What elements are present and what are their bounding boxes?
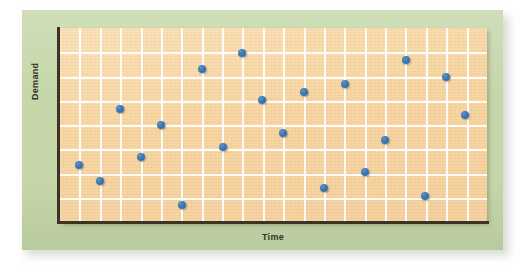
y-axis-label: Demand — [30, 63, 40, 100]
grid-line-horizontal — [59, 101, 487, 103]
x-axis-label: Time — [59, 232, 487, 242]
grid-line-horizontal — [59, 174, 487, 176]
data-point — [421, 192, 429, 200]
grid-line-horizontal — [59, 77, 487, 79]
data-point — [341, 80, 349, 88]
data-point — [75, 161, 83, 169]
data-point — [320, 184, 328, 192]
plot-area — [59, 28, 487, 222]
data-point — [279, 129, 287, 137]
y-axis-spine — [57, 27, 60, 224]
data-point — [442, 73, 450, 81]
data-point — [402, 56, 410, 64]
data-point — [300, 88, 308, 96]
data-point — [219, 143, 227, 151]
data-point — [178, 201, 186, 209]
data-point — [96, 177, 104, 185]
data-point — [198, 65, 206, 73]
data-point — [116, 105, 124, 113]
data-point — [461, 111, 469, 119]
data-point — [361, 168, 369, 176]
scatter-plot-figure: Demand Time — [0, 0, 529, 270]
data-point — [157, 121, 165, 129]
grid-line-horizontal — [59, 125, 487, 127]
x-axis-spine — [57, 221, 489, 224]
grid-line-horizontal — [59, 149, 487, 151]
data-point — [137, 153, 145, 161]
data-point — [238, 49, 246, 57]
data-point — [258, 96, 266, 104]
data-point — [381, 136, 389, 144]
grid-line-horizontal — [59, 52, 487, 54]
